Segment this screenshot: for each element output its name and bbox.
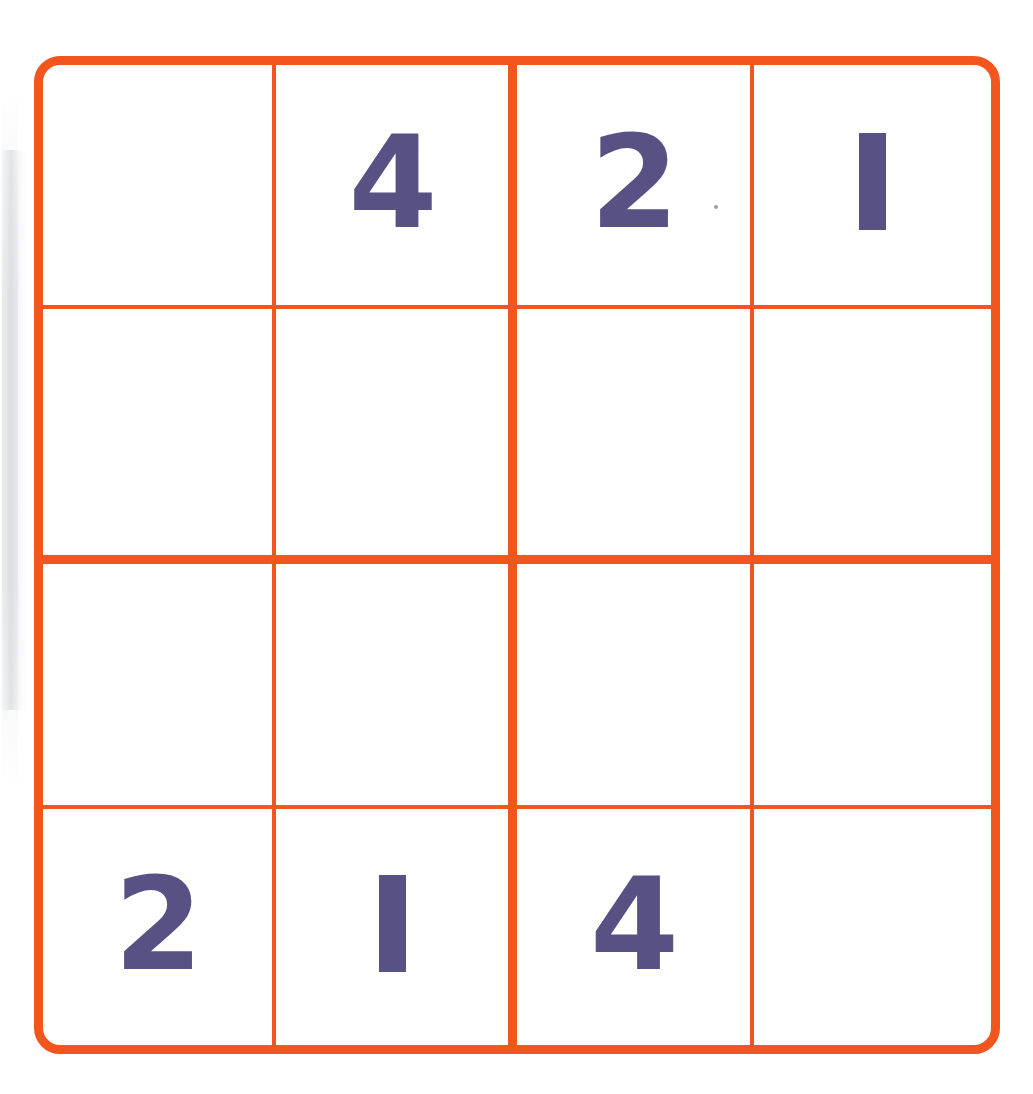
page-gutter-shadow: [0, 150, 26, 710]
cell-value-r1c3: 2: [590, 119, 677, 247]
sudoku-cell-r2c4[interactable]: [754, 309, 991, 555]
sudoku-cell-r1c2[interactable]: 4: [276, 65, 508, 305]
cell-value-r1c2: 4: [348, 119, 435, 247]
sudoku-cell-r4c4[interactable]: [754, 809, 991, 1045]
sudoku-cell-r4c3[interactable]: 4: [517, 809, 750, 1045]
print-speck-artifact: [714, 205, 718, 209]
sudoku-cell-r1c1[interactable]: [43, 65, 272, 305]
sudoku-cell-r3c4[interactable]: [754, 564, 991, 805]
page-canvas: 4 2 1: [0, 0, 1033, 1094]
sudoku-cell-r3c2[interactable]: [276, 564, 508, 805]
sudoku-cell-r4c2[interactable]: 1: [276, 809, 508, 1045]
sudoku-cell-layer: 4 2 1: [43, 65, 991, 1045]
sudoku-cell-r1c4[interactable]: 1: [754, 65, 991, 305]
sudoku-cell-r2c2[interactable]: [276, 309, 508, 555]
sudoku-cell-r1c3[interactable]: 2: [517, 65, 750, 305]
cell-value-r4c1: 2: [114, 861, 201, 989]
sudoku-grid[interactable]: 4 2 1: [34, 56, 1000, 1054]
cell-value-r4c3: 4: [590, 861, 677, 989]
cell-value-r1c4: 1: [859, 133, 886, 230]
sudoku-cell-r3c3[interactable]: [517, 564, 750, 805]
sudoku-cell-r3c1[interactable]: [43, 564, 272, 805]
sudoku-cell-r2c3[interactable]: [517, 309, 750, 555]
sudoku-cell-r2c1[interactable]: [43, 309, 272, 555]
sudoku-cell-r4c1[interactable]: 2: [43, 809, 272, 1045]
cell-value-r4c2: 1: [379, 875, 406, 972]
